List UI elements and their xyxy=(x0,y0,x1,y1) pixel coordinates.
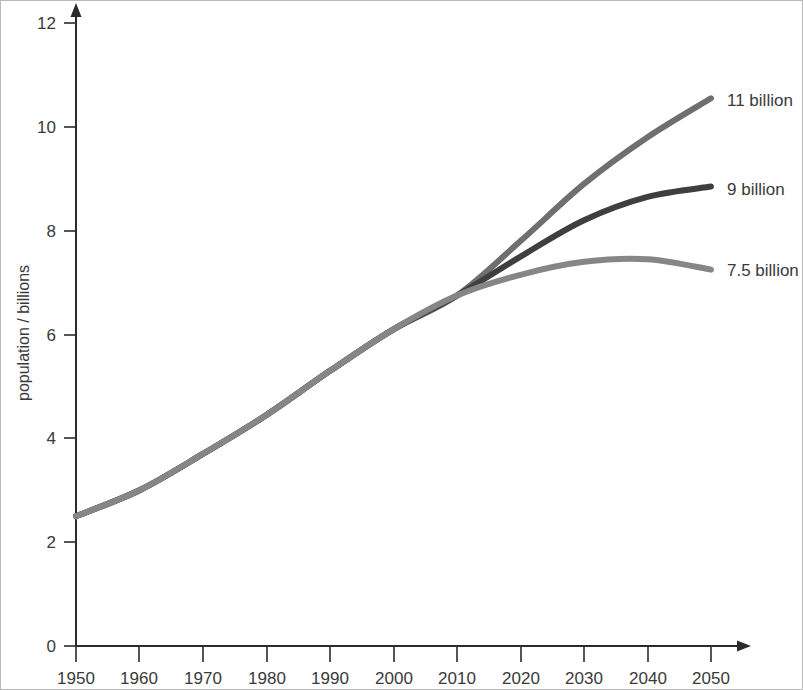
y-axis-title: population / billions xyxy=(15,265,32,401)
series-line-7-5-billion[interactable] xyxy=(76,259,711,517)
population-projection-chart: 12 10 8 6 4 2 0 population / billions 1 xyxy=(0,0,803,690)
chart-canvas: 12 10 8 6 4 2 0 population / billions 1 xyxy=(1,1,803,690)
series-label-9-billion: 9 billion xyxy=(727,180,785,199)
x-tick-labels: 1950 1960 1970 1980 1990 2000 2010 2020 … xyxy=(57,669,730,688)
x-tick-label-1980: 1980 xyxy=(248,669,286,688)
series-line-11-billion[interactable] xyxy=(76,98,711,516)
series-label-11-billion: 11 billion xyxy=(727,91,793,110)
x-tick-label-2010: 2010 xyxy=(438,669,476,688)
y-tick-labels: 12 10 8 6 4 2 0 xyxy=(37,14,56,656)
y-tick-label-10: 10 xyxy=(37,118,56,137)
x-axis xyxy=(76,641,751,652)
x-tick-label-2040: 2040 xyxy=(629,669,667,688)
y-tick-label-12: 12 xyxy=(37,14,56,33)
series-line-9-billion[interactable] xyxy=(76,187,711,517)
y-axis xyxy=(71,3,82,646)
x-tick-label-1960: 1960 xyxy=(120,669,158,688)
x-tick-label-1970: 1970 xyxy=(184,669,222,688)
series-label-7-5-billion: 7.5 billion xyxy=(727,261,799,280)
x-tick-label-2020: 2020 xyxy=(502,669,540,688)
x-tick-label-1990: 1990 xyxy=(311,669,349,688)
x-tick-label-2000: 2000 xyxy=(375,669,413,688)
x-tick-label-2050: 2050 xyxy=(692,669,730,688)
x-tick-label-1950: 1950 xyxy=(57,669,95,688)
x-tick-label-2030: 2030 xyxy=(565,669,603,688)
data-series-group xyxy=(76,98,711,516)
y-tick-label-2: 2 xyxy=(47,533,56,552)
x-axis-arrow-icon xyxy=(737,641,751,652)
y-tick-label-4: 4 xyxy=(47,429,56,448)
x-tick-marks xyxy=(76,646,711,662)
y-tick-marks xyxy=(64,23,76,646)
y-tick-label-6: 6 xyxy=(47,326,56,345)
series-end-labels: 11 billion 9 billion 7.5 billion xyxy=(727,91,799,280)
y-axis-arrow-icon xyxy=(71,3,82,17)
y-tick-label-0: 0 xyxy=(47,637,56,656)
y-tick-label-8: 8 xyxy=(47,222,56,241)
